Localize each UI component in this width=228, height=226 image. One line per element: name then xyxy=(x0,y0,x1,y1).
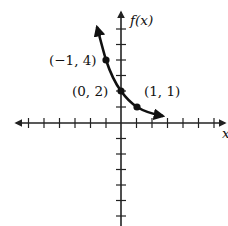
y-axis-label: f(x) xyxy=(129,12,153,28)
label-point-1-1: (1, 1) xyxy=(144,83,180,99)
point-1-1 xyxy=(133,103,140,110)
x-axis-label: x xyxy=(222,125,228,141)
label-point-0-2: (0, 2) xyxy=(72,83,108,99)
y-axis xyxy=(116,12,126,226)
exponential-graph: (−1, 4) (0, 2) (1, 1) f(x) x xyxy=(0,0,228,226)
point-0-2 xyxy=(117,87,124,94)
label-point-neg1-4: (−1, 4) xyxy=(49,52,97,68)
point-neg1-4 xyxy=(102,56,109,63)
function-curve xyxy=(97,27,163,116)
